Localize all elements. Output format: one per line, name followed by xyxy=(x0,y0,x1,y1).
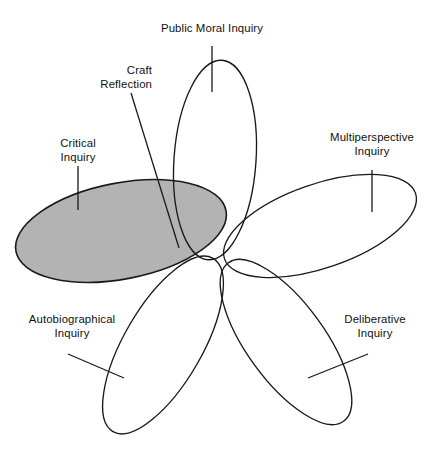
label-deliberative-inquiry: Deliberative Inquiry xyxy=(322,313,428,340)
label-critical-inquiry: Critical Inquiry xyxy=(30,137,126,164)
label-craft-reflection: Craft Reflection xyxy=(56,64,152,91)
petal-deliberative-inquiry[interactable] xyxy=(197,240,375,444)
petal-critical-inquiry[interactable] xyxy=(7,163,235,298)
leader-deliberative-inquiry xyxy=(308,354,368,378)
label-multiperspective-inquiry: Multiperspective Inquiry xyxy=(310,131,434,158)
label-public-moral-inquiry: Public Moral Inquiry xyxy=(142,22,282,36)
leader-autobiographical-inquiry xyxy=(68,354,124,378)
venn-petal-diagram: Public Moral Inquiry Craft Reflection Cr… xyxy=(0,0,438,458)
petal-multiperspective-inquiry[interactable] xyxy=(211,153,429,298)
label-autobiographical-inquiry: Autobiographical Inquiry xyxy=(14,313,130,340)
